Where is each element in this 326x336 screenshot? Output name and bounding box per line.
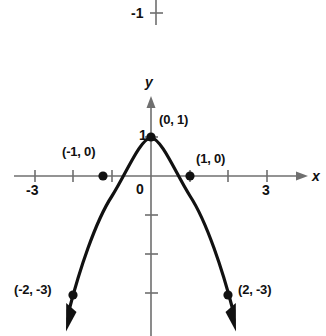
point-2--3 — [223, 290, 232, 299]
x-tick-label--3: -3 — [26, 183, 38, 197]
y-axis-label: y — [145, 75, 153, 89]
y-tick-label-1: 1 — [139, 128, 147, 142]
x-tick-label-3: 3 — [262, 183, 270, 197]
x-axis-label: x — [312, 169, 320, 183]
parabola-figure: -1 — [0, 0, 326, 336]
annotation-point-1-0: (1, 0) — [196, 152, 225, 165]
annotation-point--2--3: (-2, -3) — [14, 283, 51, 296]
annotation-point-2--3: (2, -3) — [238, 283, 271, 296]
point-1-0 — [185, 171, 194, 180]
x-axis-group — [14, 170, 308, 182]
point-0-1 — [146, 132, 155, 141]
annotation-point--1-0: (-1, 0) — [62, 145, 95, 158]
y-axis-arrowhead — [147, 96, 156, 108]
cropped-axis-fragment — [150, 0, 163, 25]
x-axis-arrowhead — [296, 172, 308, 181]
point--2--3 — [68, 290, 77, 299]
origin-label: 0 — [136, 182, 144, 196]
point--1-0 — [98, 171, 107, 180]
cropped-tick-label-minus-one: -1 — [131, 6, 143, 20]
annotation-point-0-1: (0, 1) — [159, 113, 188, 126]
